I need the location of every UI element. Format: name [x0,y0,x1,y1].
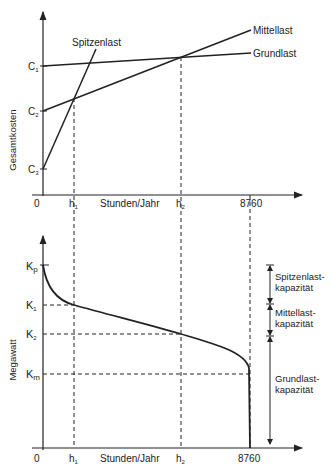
peak-load-line [43,49,96,169]
bottom-x-h2: h2 [176,453,186,465]
base-load-label: Grundlast [253,48,297,59]
peak-capacity-label-2: kapazität [275,282,313,293]
bottom-load-chart: Kp K1 K2 Km Megawatt Spitzenlast- kapazi… [7,236,325,465]
c3-label: C3 [28,164,39,176]
top-y-axis-label: Gesamtkosten [7,109,18,170]
peak-load-label: Spitzenlast [72,37,121,48]
bottom-x-end: 8760 [238,453,261,464]
top-x-label: Stunden/Jahr [100,198,160,209]
peak-capacity-label-1: Spitzenlast- [275,271,325,282]
bottom-x-zero: 0 [34,453,40,464]
top-x-zero: 0 [34,198,40,209]
km-label: Km [26,368,40,382]
k1-label: K1 [26,299,37,312]
k2-label: K2 [26,328,37,341]
bottom-x-label: Stunden/Jahr [100,453,160,464]
bottom-x-h1: h1 [69,453,79,465]
bottom-y-axis-label: Megawatt [7,339,18,381]
middle-load-label: Mittellast [253,25,293,36]
base-capacity-label-1: Grundlast- [275,373,319,384]
top-x-end: 8760 [240,198,263,209]
middle-capacity-label-2: kapazität [275,318,313,329]
c1-label: C1 [28,61,39,73]
base-capacity-label-2: kapazität [275,384,313,395]
c2-label: C2 [28,106,39,118]
top-x-h1: h1 [69,198,79,210]
load-duration-diagram: C1 C2 C3 Spitzenlast Mittellast Grundlas… [0,0,333,472]
top-cost-chart: C1 C2 C3 Spitzenlast Mittellast Grundlas… [7,12,302,448]
kp-label: Kp [26,260,38,274]
top-x-h2: h2 [176,198,186,210]
middle-capacity-label-1: Mittellast- [275,307,316,318]
base-load-line [43,53,251,66]
